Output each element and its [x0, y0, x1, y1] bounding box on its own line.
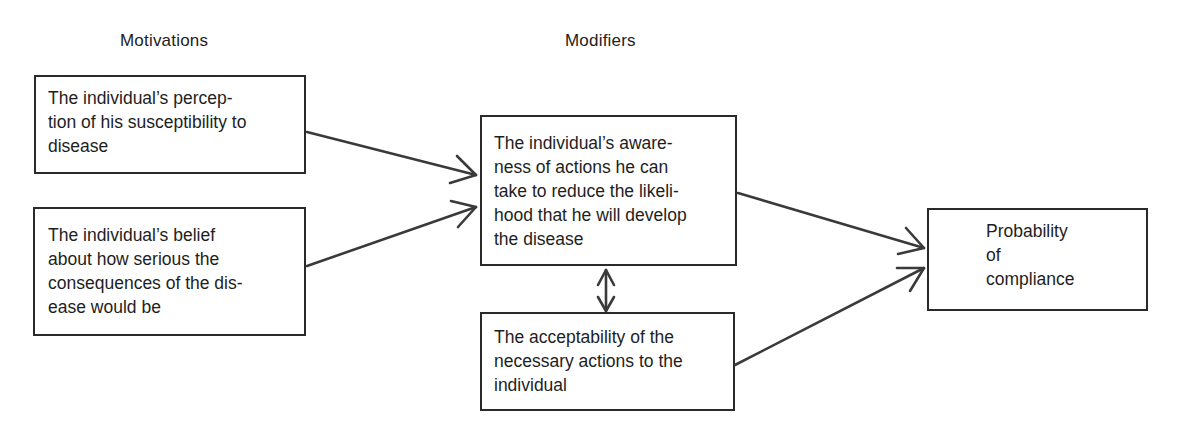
- arrow-susceptibility-to-awareness: [307, 132, 476, 183]
- connectors: [0, 0, 1179, 442]
- arrow-seriousness-to-awareness: [307, 201, 476, 266]
- double-arrow-awareness-acceptability: [598, 270, 614, 311]
- arrow-acceptability-to-compliance: [735, 268, 924, 365]
- arrow-awareness-to-compliance: [738, 193, 924, 254]
